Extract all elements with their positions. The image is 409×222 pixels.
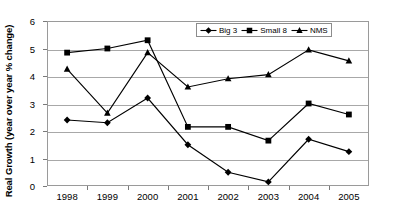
x-tick-label: 2000 [125, 191, 171, 202]
y-tick-mark [43, 131, 47, 132]
y-tick-mark [43, 104, 47, 105]
x-tick-label: 2001 [165, 191, 211, 202]
line-chart: Real Growth (year over year % change) 01… [0, 0, 409, 222]
y-tick-label: 0 [15, 181, 35, 192]
x-tick-mark [168, 186, 169, 190]
x-tick-label: 2002 [205, 191, 251, 202]
y-tick-label: 1 [15, 153, 35, 164]
legend-label: Small 8 [260, 26, 287, 35]
x-tick-label: 2003 [245, 191, 291, 202]
gridline [48, 77, 368, 78]
y-tick-label: 4 [15, 71, 35, 82]
legend-marker-square-icon [241, 26, 258, 35]
legend-marker-triangle-icon [291, 26, 308, 35]
y-tick-label: 6 [15, 16, 35, 27]
chart-legend: Big 3Small 8NMS [196, 23, 332, 37]
y-tick-label: 3 [15, 98, 35, 109]
y-tick-label: 5 [15, 43, 35, 54]
x-tick-mark [87, 186, 88, 190]
x-tick-mark [289, 186, 290, 190]
y-tick-mark [43, 76, 47, 77]
y-tick-mark [43, 159, 47, 160]
x-tick-mark [208, 186, 209, 190]
gridline [48, 50, 368, 51]
gridline [48, 132, 368, 133]
y-tick-mark [43, 49, 47, 50]
y-tick-label: 2 [15, 126, 35, 137]
gridline [48, 160, 368, 161]
legend-entry-nms: NMS [291, 26, 328, 35]
gridline [48, 105, 368, 106]
x-tick-label: 2005 [326, 191, 372, 202]
y-tick-mark [43, 186, 47, 187]
legend-entry-big-3: Big 3 [200, 26, 237, 35]
legend-label: NMS [310, 26, 328, 35]
legend-marker-diamond-icon [200, 26, 217, 35]
legend-entry-small-8: Small 8 [241, 26, 287, 35]
y-axis-title: Real Growth (year over year % change) [0, 0, 16, 222]
x-tick-label: 1998 [44, 191, 90, 202]
legend-label: Big 3 [219, 26, 237, 35]
x-tick-label: 1999 [84, 191, 130, 202]
x-tick-label: 2004 [286, 191, 332, 202]
plot-area [47, 21, 369, 186]
x-tick-mark [128, 186, 129, 190]
x-tick-mark [329, 186, 330, 190]
x-tick-mark [248, 186, 249, 190]
y-tick-mark [43, 21, 47, 22]
